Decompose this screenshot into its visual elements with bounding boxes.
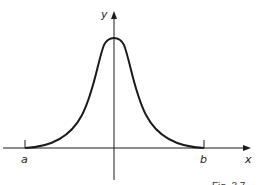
- figure-caption: Fig. 3.7: [212, 181, 246, 185]
- point-a-label: a: [21, 153, 28, 166]
- bell-curve-figure: y x a b Fig. 3.7: [0, 0, 259, 185]
- point-b-label: b: [200, 153, 207, 166]
- y-axis-label: y: [100, 8, 108, 21]
- x-axis-label: x: [244, 153, 252, 166]
- x-axis-arrow-icon: [243, 145, 251, 151]
- y-axis-arrow-icon: [111, 11, 117, 19]
